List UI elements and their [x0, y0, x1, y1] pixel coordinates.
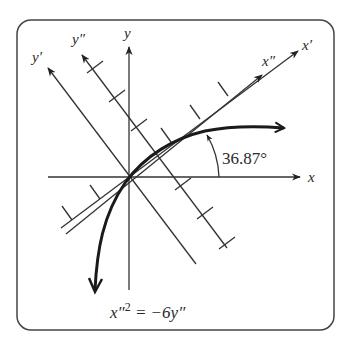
rotation-angle-arc — [207, 135, 219, 177]
rotated-parabola-diagram: x y x′ y′ x″ y″ 36.87° x″2 = −6y″ — [0, 0, 351, 339]
y-prime-axis — [48, 68, 196, 264]
y-double-prime-ticks — [87, 61, 235, 249]
y-prime-axis-label: y′ — [30, 49, 43, 65]
x-double-prime-ticks — [62, 82, 228, 220]
y-double-prime-axis — [82, 55, 227, 248]
y-double-prime-axis-label: y″ — [70, 31, 86, 47]
x-double-prime-axis-label: x″ — [261, 53, 276, 69]
y-axis-label: y — [122, 25, 131, 41]
parabola-equation: x″2 = −6y″ — [109, 300, 186, 322]
x-axis-label: x — [307, 169, 315, 185]
rotation-angle-label: 36.87° — [222, 149, 267, 168]
x-prime-axis-label: x′ — [301, 37, 313, 53]
figure-frame — [17, 20, 334, 330]
